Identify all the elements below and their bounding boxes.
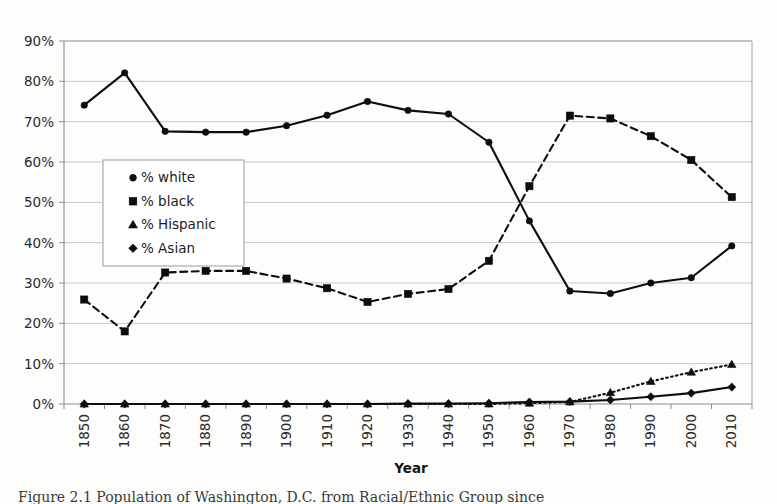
circle-marker xyxy=(567,288,573,294)
x-axis-tick-label: 1980 xyxy=(602,414,618,448)
square-marker xyxy=(566,112,573,119)
square-marker xyxy=(688,156,695,163)
figure-container: 0%10%20%30%40%50%60%70%80%90% 1850186018… xyxy=(0,0,777,504)
circle-marker xyxy=(243,129,249,135)
chart-legend: % white% black% Hispanic% Asian xyxy=(103,160,244,266)
y-axis-tick-label: 60% xyxy=(24,154,54,170)
circle-marker xyxy=(526,218,532,224)
circle-marker xyxy=(729,243,735,249)
x-axis-tick-label: 2010 xyxy=(723,414,739,448)
square-marker xyxy=(364,298,371,305)
square-marker xyxy=(445,285,452,292)
triangle-marker xyxy=(687,368,696,375)
x-axis-tick-label: 1910 xyxy=(319,414,335,448)
square-marker xyxy=(81,296,88,303)
circle-marker xyxy=(364,98,370,104)
y-axis-tick-label: 80% xyxy=(24,73,54,89)
x-axis-title: Year xyxy=(393,460,428,476)
x-axis-tick-label: 1960 xyxy=(521,414,537,448)
square-marker xyxy=(243,267,250,274)
y-axis-tick-label: 40% xyxy=(24,235,54,251)
y-axis-tick-label: 20% xyxy=(24,315,54,331)
square-marker xyxy=(607,115,614,122)
x-axis-tick-label: 1870 xyxy=(157,414,173,448)
square-marker xyxy=(647,133,654,140)
circle-marker xyxy=(283,122,289,128)
x-axis-tick-label: 1880 xyxy=(197,414,213,448)
circle-marker xyxy=(130,174,137,181)
square-marker xyxy=(283,275,290,282)
y-axis-tick-label: 0% xyxy=(33,396,55,412)
x-axis-tick-label: 1890 xyxy=(238,414,254,448)
square-marker xyxy=(404,290,411,297)
circle-marker xyxy=(162,128,168,134)
diamond-marker xyxy=(687,389,695,397)
circle-marker xyxy=(121,70,127,76)
diamond-marker xyxy=(647,393,655,401)
circle-marker xyxy=(202,129,208,135)
legend-label: % white xyxy=(141,169,195,185)
square-marker xyxy=(728,193,735,200)
y-axis-tick-label: 30% xyxy=(24,275,54,291)
legend-label: % black xyxy=(141,193,194,209)
x-axis-tick-label: 1920 xyxy=(359,414,375,448)
legend-item-hispanic[interactable]: % Hispanic xyxy=(129,216,216,232)
y-axis-tick-label: 10% xyxy=(24,356,54,372)
x-axis-tick-label: 1970 xyxy=(561,414,577,448)
y-axis-tick-labels: 0%10%20%30%40%50%60%70%80%90% xyxy=(24,33,54,412)
square-marker xyxy=(162,269,169,276)
figure-caption: Figure 2.1 Population of Washington, D.C… xyxy=(18,489,544,504)
square-marker xyxy=(121,328,128,335)
x-axis-tick-label: 1940 xyxy=(440,414,456,448)
x-axis-tick-label: 1860 xyxy=(116,414,132,448)
x-axis-tick-label: 1950 xyxy=(480,414,496,448)
x-axis-tick-label: 1850 xyxy=(76,414,92,448)
legend-label: % Asian xyxy=(141,240,195,256)
y-axis-tick-label: 70% xyxy=(24,114,54,130)
circle-marker xyxy=(648,280,654,286)
legend-label: % Hispanic xyxy=(141,216,216,232)
square-marker xyxy=(323,285,330,292)
circle-marker xyxy=(445,111,451,117)
y-axis-tick-label: 50% xyxy=(24,194,54,210)
y-axis-tick-label: 90% xyxy=(24,33,54,49)
diamond-marker xyxy=(728,383,736,391)
circle-marker xyxy=(607,290,613,296)
square-marker xyxy=(202,267,209,274)
circle-marker xyxy=(688,275,694,281)
diamond-marker xyxy=(606,396,614,404)
square-marker xyxy=(129,197,137,205)
x-axis-tick-labels: 1850186018701880189019001910192019301940… xyxy=(76,414,740,448)
circle-marker xyxy=(324,112,330,118)
x-axis-tick-label: 1930 xyxy=(400,414,416,448)
x-axis-tick-label: 1990 xyxy=(642,414,658,448)
circle-marker xyxy=(486,139,492,145)
circle-marker xyxy=(81,102,87,108)
square-marker xyxy=(485,257,492,264)
line-chart: 0%10%20%30%40%50%60%70%80%90% 1850186018… xyxy=(0,0,777,504)
x-axis-tick-label: 1900 xyxy=(278,414,294,448)
x-axis-tick-label: 2000 xyxy=(683,414,699,448)
square-marker xyxy=(526,183,533,190)
circle-marker xyxy=(405,107,411,113)
